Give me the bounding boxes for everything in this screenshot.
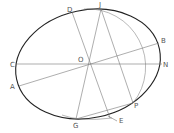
line-a-b xyxy=(19,43,159,86)
label-n: N xyxy=(163,61,168,69)
label-d: D xyxy=(67,6,72,14)
label-b: B xyxy=(161,37,166,45)
label-o: O xyxy=(78,56,84,64)
line-j-p xyxy=(101,9,133,103)
ellipse-diagram: D J B C O N A P E G xyxy=(0,0,174,133)
label-c: C xyxy=(10,61,15,69)
label-e: E xyxy=(119,117,123,125)
line-d-e xyxy=(72,12,110,118)
label-g: G xyxy=(73,122,78,130)
construction-arc xyxy=(84,9,146,103)
label-a: A xyxy=(10,83,15,91)
label-p: P xyxy=(134,102,138,110)
line-g-p xyxy=(76,103,133,119)
label-j: J xyxy=(98,1,101,9)
